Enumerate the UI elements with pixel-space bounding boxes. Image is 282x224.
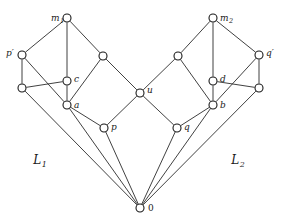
edge-a-zero xyxy=(70,109,137,204)
node-zero[interactable]: 0 xyxy=(136,203,154,213)
edge-b-zero xyxy=(143,109,210,204)
node-circle-n4 xyxy=(255,84,263,92)
node-circle-b xyxy=(209,101,217,109)
node-circle-u xyxy=(136,89,144,97)
node-pp[interactable]: p′ xyxy=(6,48,26,59)
edge-m1-n1 xyxy=(70,21,99,52)
node-a[interactable]: a xyxy=(63,100,79,110)
edge-q-zero xyxy=(142,132,175,203)
node-c[interactable]: c xyxy=(63,74,79,85)
edge-pp-a xyxy=(25,59,64,102)
edge-c-n3 xyxy=(27,82,63,88)
node-b[interactable]: b xyxy=(209,100,226,110)
node-circle-n1 xyxy=(99,52,107,60)
edge-m1-pp xyxy=(26,21,64,52)
node-circle-zero xyxy=(136,204,144,212)
edge-n4-zero xyxy=(143,91,255,204)
node-circle-q xyxy=(173,124,181,132)
region-labels-group: L1L2 xyxy=(32,153,245,169)
region-label-L1: L1 xyxy=(32,153,47,169)
node-label-p: p xyxy=(111,122,117,132)
node-circle-d xyxy=(209,77,217,85)
node-circle-pp xyxy=(18,51,26,59)
edge-p-zero xyxy=(106,132,138,203)
node-u[interactable]: u xyxy=(136,85,153,97)
node-circle-p xyxy=(100,124,108,132)
node-label-u: u xyxy=(147,85,153,95)
edge-u-q xyxy=(143,96,173,124)
node-label-c: c xyxy=(74,74,79,84)
node-label-q: q xyxy=(184,122,190,132)
node-circle-qp xyxy=(255,51,263,59)
node-n1[interactable] xyxy=(99,52,107,60)
node-n2[interactable] xyxy=(174,52,182,60)
hasse-diagram-figure: m1m2p′q′cduabpq0 L1L2 xyxy=(0,0,282,224)
node-circle-c xyxy=(63,77,71,85)
edge-m2-n2 xyxy=(181,22,210,53)
node-circle-n2 xyxy=(174,52,182,60)
edge-n3-zero xyxy=(25,91,136,204)
node-label-qp: q′ xyxy=(266,48,274,58)
diagram-canvas: m1m2p′q′cduabpq0 L1L2 xyxy=(0,0,282,224)
edges-group xyxy=(22,21,259,205)
region-label-L2: L2 xyxy=(230,153,245,169)
node-circle-a xyxy=(63,101,71,109)
node-circle-m1 xyxy=(63,14,71,22)
node-label-zero: 0 xyxy=(148,203,154,213)
node-m1[interactable]: m1 xyxy=(51,13,71,25)
node-label-d: d xyxy=(220,74,226,84)
node-label-a: a xyxy=(74,100,79,110)
node-d[interactable]: d xyxy=(209,74,226,85)
node-n4[interactable] xyxy=(255,84,263,92)
node-q[interactable]: q xyxy=(173,122,190,132)
node-label-b: b xyxy=(220,100,226,110)
node-circle-m2 xyxy=(209,14,217,22)
node-circle-n3 xyxy=(18,84,26,92)
edge-u-p xyxy=(107,96,136,124)
edge-n1-u xyxy=(106,59,136,89)
node-label-m2: m2 xyxy=(220,13,233,25)
node-qp[interactable]: q′ xyxy=(255,48,274,59)
node-label-m1: m1 xyxy=(51,13,64,25)
edge-n2-b xyxy=(181,60,210,101)
node-n3[interactable] xyxy=(18,84,26,92)
node-label-pp: p′ xyxy=(6,48,14,58)
edge-m2-qp xyxy=(217,21,256,52)
